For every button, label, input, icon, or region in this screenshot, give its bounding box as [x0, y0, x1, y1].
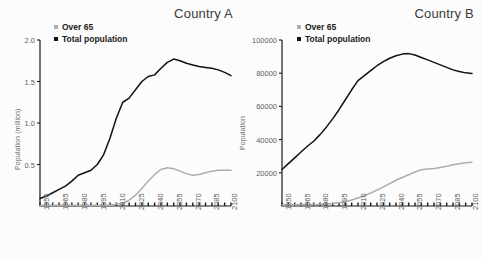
- y-tick-label-b-2: 60000: [241, 102, 277, 111]
- x-tick-label-a-0: 1950: [42, 193, 51, 210]
- y-tick-label-b-0: 100000: [241, 36, 277, 45]
- legend-item-over-65: Over 65: [297, 21, 370, 33]
- y-tick-label-a-1: 1.5: [17, 77, 35, 86]
- x-tick-label-b-3: 1995: [340, 193, 349, 210]
- x-tick-label-a-9: 2085: [212, 193, 221, 210]
- y-tick-label-a-3: 0.5: [17, 160, 35, 169]
- legend-swatch-over-65-icon: [54, 25, 58, 29]
- legend-swatch-total-population-icon: [297, 37, 301, 41]
- legend-label-total-population: Total population: [62, 33, 127, 45]
- legend-swatch-over-65-icon: [297, 25, 301, 29]
- legend-label-over-65: Over 65: [62, 21, 93, 33]
- axis-lines: [40, 40, 231, 206]
- x-tick-label-b-0: 1950: [284, 193, 293, 210]
- legend-label-over-65: Over 65: [305, 21, 336, 33]
- legend-country-a: Over 65 Total population: [54, 21, 127, 46]
- chart-title-country-a: Country A: [174, 6, 233, 21]
- x-tick-label-b-6: 2040: [397, 193, 406, 210]
- x-tick-label-a-10: 2100: [230, 193, 239, 210]
- x-tick-label-b-9: 2085: [453, 193, 462, 210]
- x-tick-label-b-7: 2055: [415, 193, 424, 210]
- x-tick-label-a-1: 1965: [61, 193, 70, 210]
- legend-country-b: Over 65 Total population: [297, 21, 370, 46]
- x-tick-label-b-4: 2010: [359, 193, 368, 210]
- y-tick-label-b-3: 40000: [241, 135, 277, 144]
- x-tick-label-a-6: 2040: [156, 193, 165, 210]
- x-tick-label-a-4: 2010: [118, 193, 127, 210]
- x-tick-label-a-8: 2070: [194, 193, 203, 210]
- x-tick-label-b-10: 2100: [471, 193, 480, 210]
- x-tick-label-a-3: 1995: [99, 193, 108, 210]
- x-tick-label-b-2: 1980: [321, 193, 330, 210]
- legend-swatch-total-population-icon: [54, 37, 58, 41]
- legend-label-total-population: Total population: [305, 33, 370, 45]
- legend-item-over-65: Over 65: [54, 21, 127, 33]
- legend-item-total-population: Total population: [54, 33, 127, 45]
- x-tick-label-b-1: 1965: [303, 193, 312, 210]
- x-tick-label-b-5: 2025: [378, 193, 387, 210]
- y-tick-label-b-4: 20000: [241, 168, 277, 177]
- chart-title-country-b: Country B: [414, 6, 474, 21]
- y-tick-label-b-1: 80000: [241, 69, 277, 78]
- chart-panel-country-b: Country B Over 65 Total population Popul…: [241, 0, 482, 258]
- figure-two-panel-population-charts: Country A Over 65 Total population Popul…: [0, 0, 482, 258]
- series-line-total-population: [282, 54, 472, 170]
- y-axis-label-country-b: Population: [239, 116, 246, 150]
- series-line-total-population: [40, 59, 231, 198]
- x-tick-label-b-8: 2070: [434, 193, 443, 210]
- x-tick-label-a-2: 1980: [80, 193, 89, 210]
- y-tick-label-a-2: 1.0: [17, 119, 35, 128]
- x-tick-label-a-7: 2055: [175, 193, 184, 210]
- y-tick-label-a-0: 2.0: [17, 36, 35, 45]
- chart-panel-country-a: Country A Over 65 Total population Popul…: [0, 0, 241, 258]
- legend-item-total-population: Total population: [297, 33, 370, 45]
- x-tick-label-a-5: 2025: [137, 193, 146, 210]
